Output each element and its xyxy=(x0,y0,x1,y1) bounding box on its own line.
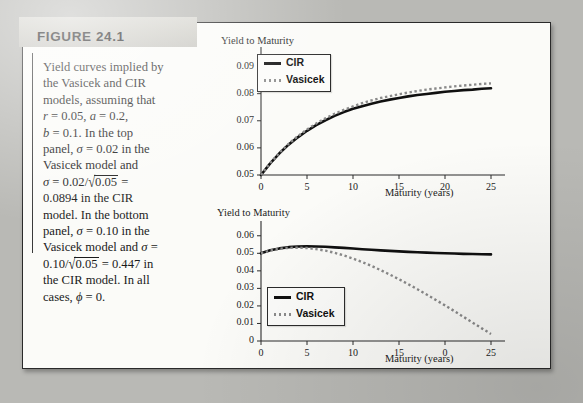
legend-cir-label-bottom: CIR xyxy=(296,290,314,302)
chart-bottom-ytick-0: 0 xyxy=(221,334,254,345)
chart-top-xtick-4: 20 xyxy=(431,181,459,192)
chart-top-ytick-4: 0.09 xyxy=(221,60,254,71)
chart-top-xtick-5: 25 xyxy=(477,181,505,192)
chart-bottom-panel: Yield to Maturity Maturity (years) CIR V… xyxy=(199,205,549,368)
legend-vasicek-label-bottom: Vasicek xyxy=(296,307,335,319)
chart-bottom-xtick-5: 25 xyxy=(477,347,505,358)
chart-bottom-legend[interactable]: CIR Vasicek xyxy=(267,287,345,326)
chart-top-ytick-1: 0.06 xyxy=(221,141,254,152)
caption-line-4: b = 0.1. In the top xyxy=(43,126,133,140)
chart-bottom-xtick-1: 5 xyxy=(293,347,321,358)
caption-line-12: 0.10/√0.05 = 0.447 in xyxy=(43,257,153,271)
caption-line-3: r = 0.05, a = 0.2, xyxy=(43,109,128,123)
chart-bottom-ytick-5: 0.05 xyxy=(221,246,254,257)
figure-caption-text: Yield curves implied by the Vasicek and … xyxy=(43,59,193,305)
chart-bottom-ytick-4: 0.04 xyxy=(221,264,254,275)
chart-bottom-xtick-4: 0 xyxy=(431,347,459,358)
chart-top-panel: Yield to Maturity Maturity (years) CIR V… xyxy=(199,27,549,203)
legend-vasicek-label-top: Vasicek xyxy=(286,73,325,85)
chart-top-legend[interactable]: CIR Vasicek xyxy=(257,54,331,92)
legend-cir-swatch-bottom xyxy=(274,296,291,299)
chart-bottom-ytick-1: 0.01 xyxy=(221,316,254,327)
caption-line-7: σ = 0.02/√0.05 = xyxy=(43,175,128,189)
chart-bottom-xtick-3: 15 xyxy=(385,347,413,358)
caption-line-2: models, assuming that xyxy=(43,93,155,107)
caption-line-14: cases, ϕ = 0. xyxy=(43,290,105,304)
caption-line-10: panel, σ = 0.10 in the xyxy=(43,224,150,238)
chart-top-xtick-3: 15 xyxy=(385,181,413,192)
chart-bottom-ytick-6: 0.06 xyxy=(221,229,254,240)
chart-bottom-xtick-0: 0 xyxy=(247,347,275,358)
caption-line-9: model. In the bottom xyxy=(43,208,149,222)
chart-top-ytick-2: 0.07 xyxy=(221,114,254,125)
legend-vasicek-swatch-top xyxy=(264,79,281,82)
caption-line-11: Vasicek model and σ = xyxy=(43,240,158,254)
legend-vasicek-swatch-bottom xyxy=(274,313,291,316)
caption-line-5: panel, σ = 0.02 in the xyxy=(43,142,150,156)
caption-divider-rule xyxy=(32,53,33,253)
figure-caption-column: FIGURE 24.1 Yield curves implied by the … xyxy=(23,23,199,368)
chart-bottom-ytick-3: 0.03 xyxy=(221,281,254,292)
caption-line-8: 0.0894 in the CIR xyxy=(43,191,133,205)
legend-cir-label-top: CIR xyxy=(286,56,304,68)
caption-line-13: the CIR model. In all xyxy=(43,273,150,287)
chart-bottom-ytick-2: 0.02 xyxy=(221,299,254,310)
caption-line-0: Yield curves implied by xyxy=(43,60,164,74)
caption-line-1: the Vasicek and CIR xyxy=(43,76,146,90)
figure-box: FIGURE 24.1 Yield curves implied by the … xyxy=(22,22,551,369)
chart-top-xtick-0: 0 xyxy=(247,181,275,192)
chart-top-ytick-3: 0.08 xyxy=(221,87,254,98)
figure-label: FIGURE 24.1 xyxy=(37,29,125,44)
caption-line-6: Vasicek model and xyxy=(43,158,138,172)
chart-top-ytick-0: 0.05 xyxy=(221,168,254,179)
chart-bottom-xtick-2: 10 xyxy=(339,347,367,358)
chart-top-xtick-1: 5 xyxy=(293,181,321,192)
chart-top-xtick-2: 10 xyxy=(339,181,367,192)
legend-cir-swatch-top xyxy=(264,62,281,65)
